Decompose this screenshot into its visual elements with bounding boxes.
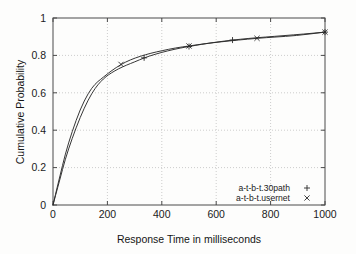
x-axis-title: Response Time in milliseconds bbox=[117, 233, 261, 245]
legend-label-1: a-t-b-t.30path bbox=[238, 183, 290, 193]
x-tick-label: 400 bbox=[153, 208, 171, 220]
y-tick-label: 0 bbox=[40, 199, 46, 211]
x-tick-label: 600 bbox=[207, 208, 225, 220]
x-tick-label: 800 bbox=[262, 208, 280, 220]
x-tick-label: 0 bbox=[50, 208, 56, 220]
cdf-line-chart: 02004006008001000 00.20.40.60.81 a-t-b-t… bbox=[0, 0, 356, 254]
y-axis-title: Cumulative Probability bbox=[14, 59, 26, 164]
y-tick-label: 0.4 bbox=[31, 124, 46, 136]
chart-figure: 02004006008001000 00.20.40.60.81 a-t-b-t… bbox=[0, 0, 356, 254]
x-tick-label: 1000 bbox=[313, 208, 337, 220]
x-tick-label: 200 bbox=[99, 208, 117, 220]
legend-label-2: a-t-b-t.usernet bbox=[236, 193, 291, 203]
y-tick-label: 0.6 bbox=[31, 87, 46, 99]
y-tick-label: 0.8 bbox=[31, 49, 46, 61]
y-tick-label: 0.2 bbox=[31, 161, 46, 173]
y-tick-label: 1 bbox=[40, 12, 46, 24]
